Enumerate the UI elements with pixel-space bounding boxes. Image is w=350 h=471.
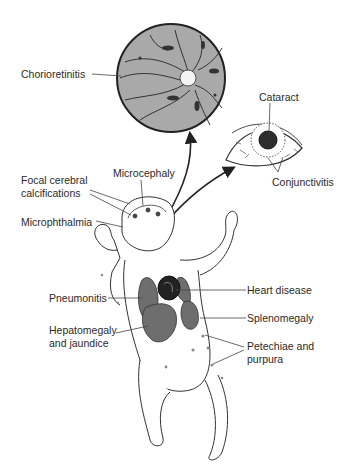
label-pneumonitis: Pneumonitis bbox=[49, 292, 107, 304]
label-cataract: Cataract bbox=[259, 91, 299, 103]
retina-fundus-icon bbox=[117, 24, 225, 132]
heart-icon bbox=[158, 276, 180, 300]
label-microphthalmia: Microphthalmia bbox=[21, 216, 92, 228]
label-heart-disease: Heart disease bbox=[247, 284, 312, 296]
label-hepatomegaly: Hepatomegaly bbox=[49, 324, 117, 336]
label-splenomegaly: Splenomegaly bbox=[247, 312, 314, 324]
label-microcephaly: Microcephaly bbox=[113, 167, 175, 179]
label-and-jaundice: and jaundice bbox=[49, 337, 109, 349]
label-focal-cerebral: Focal cerebral bbox=[21, 174, 88, 186]
eye-icon bbox=[226, 123, 302, 166]
label-calcifications: calcifications bbox=[21, 187, 81, 199]
label-chorioretinitis: Chorioretinitis bbox=[21, 68, 85, 80]
label-petechiae: Petechiae and bbox=[247, 340, 314, 352]
label-purpura: purpura bbox=[247, 353, 283, 365]
label-conjunctivitis: Conjunctivitis bbox=[272, 176, 334, 188]
